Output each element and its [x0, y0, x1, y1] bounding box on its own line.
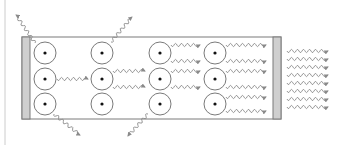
atom-nucleus-dot [43, 51, 46, 54]
output-beam-photon [287, 97, 328, 100]
atom-nucleus-dot [158, 51, 161, 54]
atom-nucleus-dot [43, 102, 46, 105]
photon-in-cavity [113, 85, 145, 88]
atom-nucleus-dot [100, 77, 103, 80]
output-beam-photon [287, 105, 328, 108]
output-beam-photon [287, 57, 328, 60]
atom [149, 93, 171, 115]
atom [91, 68, 113, 90]
atom-nucleus-dot [158, 77, 161, 80]
escaping-photon [111, 17, 132, 42]
output-beam-photon [287, 81, 328, 84]
atom-nucleus-dot [213, 102, 216, 105]
atom-nucleus-dot [213, 51, 216, 54]
photon-in-cavity [171, 59, 200, 62]
atom [91, 93, 113, 115]
atom [204, 42, 226, 64]
output-beam-photon [287, 73, 328, 76]
atom [34, 68, 56, 90]
atom [204, 93, 226, 115]
atom-nucleus-dot [158, 102, 161, 105]
atom-nucleus-dot [100, 51, 103, 54]
escaping-photon [54, 114, 80, 135]
laser-diagram [0, 0, 341, 145]
photon-in-cavity [171, 69, 200, 72]
atom [91, 42, 113, 64]
atom-nucleus-dot [100, 102, 103, 105]
left-mirror [22, 37, 30, 119]
output-beam-photon [287, 65, 328, 68]
atom [34, 42, 56, 64]
photon-in-cavity [226, 43, 266, 46]
atom [149, 68, 171, 90]
atom [34, 93, 56, 115]
photon-in-cavity [57, 77, 88, 80]
photon-in-cavity [171, 43, 200, 46]
photon-in-cavity [226, 95, 266, 98]
output-beam-photon [287, 49, 328, 52]
atom-nucleus-dot [43, 77, 46, 80]
atom-nucleus-dot [213, 77, 216, 80]
output-beam-photon [287, 89, 328, 92]
photon-in-cavity [226, 69, 266, 72]
escaping-photon [128, 114, 148, 136]
photon-in-cavity [171, 85, 200, 88]
photon-in-cavity [226, 85, 266, 88]
photon-in-cavity [113, 69, 145, 72]
right-mirror [273, 37, 281, 119]
atom [149, 42, 171, 64]
photon-in-cavity [226, 109, 266, 112]
photon-in-cavity [226, 59, 266, 62]
atom [204, 68, 226, 90]
